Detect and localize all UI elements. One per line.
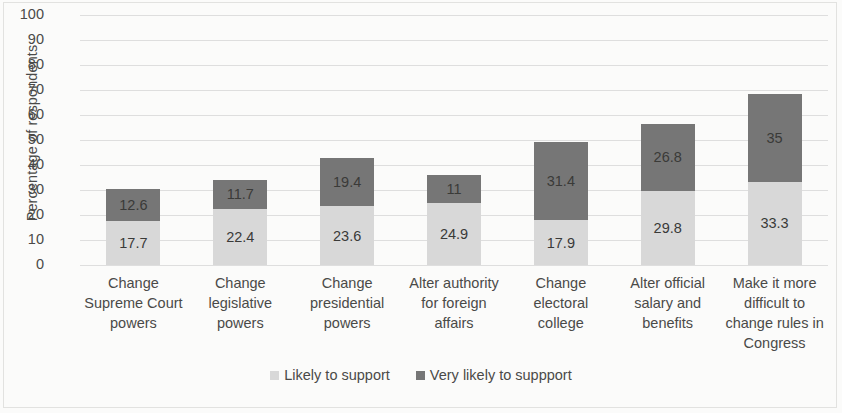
bar-value-label: 33.3: [748, 215, 802, 231]
x-axis-category-label: Changelegislativepowers: [188, 273, 292, 333]
y-axis-tick-label: 70: [0, 81, 44, 97]
y-axis-tick-label: 100: [0, 6, 44, 22]
y-axis-tick-label: 60: [0, 106, 44, 122]
x-axis-category-label-line: difficult to: [723, 293, 827, 313]
plot-area: 1009080706050403020100 17.712.622.411.72…: [80, 15, 828, 265]
bar-value-label: 11.7: [213, 186, 267, 202]
x-axis-category-label-line: Change: [188, 273, 292, 293]
x-axis-category-label: Changepresidentialpowers: [295, 273, 399, 333]
bar-value-label: 31.4: [534, 173, 588, 189]
bar-segment-likely-to-support[interactable]: 24.9: [427, 203, 481, 265]
x-axis-category-label-line: salary and: [616, 293, 720, 313]
gridline: [80, 65, 828, 66]
x-axis-category-label-line: Alter authority: [402, 273, 506, 293]
bar-value-label: 29.8: [641, 220, 695, 236]
y-axis-tick-label: 50: [0, 131, 44, 147]
x-axis-category-label-line: powers: [188, 313, 292, 333]
gridline: [80, 140, 828, 141]
x-axis-category-label-line: Change: [81, 273, 185, 293]
bar-segment-very-likely-to-support[interactable]: 19.4: [320, 158, 374, 207]
chart-container: Percentage of respondents 10090807060504…: [3, 2, 837, 408]
y-axis-tick-label: 20: [0, 206, 44, 222]
y-axis-tick-label: 80: [0, 56, 44, 72]
gridline: [80, 115, 828, 116]
gridline: [80, 265, 828, 266]
legend-label: Very likely to suppport: [430, 367, 572, 383]
bar-stack[interactable]: 24.911: [427, 175, 481, 265]
bar-stack[interactable]: 17.712.6: [106, 189, 160, 265]
y-axis-tick-label: 10: [0, 231, 44, 247]
bar-stack[interactable]: 29.826.8: [641, 124, 695, 266]
x-axis-category-label-line: college: [509, 313, 613, 333]
bar-value-label: 19.4: [320, 174, 374, 190]
x-axis-category-label: ChangeSupreme Courtpowers: [81, 273, 185, 333]
bar-segment-very-likely-to-support[interactable]: 11: [427, 175, 481, 203]
gridline: [80, 165, 828, 166]
x-axis-category-labels: ChangeSupreme CourtpowersChangelegislati…: [80, 273, 828, 363]
bar-segment-very-likely-to-support[interactable]: 12.6: [106, 189, 160, 221]
x-axis-category-label-line: presidential: [295, 293, 399, 313]
bar-segment-very-likely-to-support[interactable]: 31.4: [534, 142, 588, 221]
bar-value-label: 11: [427, 181, 481, 197]
bar-value-label: 22.4: [213, 229, 267, 245]
legend-swatch-icon: [270, 371, 279, 380]
x-axis-category-label-line: affairs: [402, 313, 506, 333]
legend-label: Likely to support: [284, 367, 390, 383]
gridline: [80, 40, 828, 41]
x-axis-category-label-line: Supreme Court: [81, 293, 185, 313]
bar-stack[interactable]: 17.931.4: [534, 142, 588, 265]
bar-stack[interactable]: 33.335: [748, 94, 802, 265]
x-axis-category-label-line: powers: [81, 313, 185, 333]
bar-segment-very-likely-to-support[interactable]: 35: [748, 94, 802, 182]
legend-item[interactable]: Very likely to suppport: [416, 367, 572, 383]
x-axis-category-label-line: Alter official: [616, 273, 720, 293]
x-axis-category-label-line: Change: [295, 273, 399, 293]
bar-segment-likely-to-support[interactable]: 17.7: [106, 221, 160, 265]
bar-segment-likely-to-support[interactable]: 23.6: [320, 206, 374, 265]
bar-value-label: 26.8: [641, 149, 695, 165]
bar-value-label: 17.7: [106, 235, 160, 251]
x-axis-category-label-line: for foreign: [402, 293, 506, 313]
x-axis-category-label: Alter authorityfor foreignaffairs: [402, 273, 506, 333]
bar-segment-very-likely-to-support[interactable]: 11.7: [213, 180, 267, 209]
x-axis-category-label-line: legislative: [188, 293, 292, 313]
bar-segment-likely-to-support[interactable]: 17.9: [534, 220, 588, 265]
gridline: [80, 90, 828, 91]
bar-value-label: 35: [748, 130, 802, 146]
x-axis-category-label: Alter officialsalary andbenefits: [616, 273, 720, 333]
x-axis-category-label-line: Congress: [723, 333, 827, 353]
y-axis-tick-label: 40: [0, 156, 44, 172]
y-axis-tick-label: 30: [0, 181, 44, 197]
bar-segment-likely-to-support[interactable]: 33.3: [748, 182, 802, 265]
gridline: [80, 15, 828, 16]
bar-value-label: 12.6: [106, 197, 160, 213]
bar-segment-very-likely-to-support[interactable]: 26.8: [641, 124, 695, 191]
x-axis-category-label: Make it moredifficult tochange rules inC…: [723, 273, 827, 353]
x-axis-category-label-line: change rules in: [723, 313, 827, 333]
bar-segment-likely-to-support[interactable]: 29.8: [641, 191, 695, 266]
bar-stack[interactable]: 22.411.7: [213, 180, 267, 265]
x-axis-category-label-line: Make it more: [723, 273, 827, 293]
bar-segment-likely-to-support[interactable]: 22.4: [213, 209, 267, 265]
x-axis-category-label-line: benefits: [616, 313, 720, 333]
x-axis-category-label-line: powers: [295, 313, 399, 333]
bar-value-label: 23.6: [320, 228, 374, 244]
x-axis-category-label-line: Change: [509, 273, 613, 293]
bar-value-label: 24.9: [427, 226, 481, 242]
x-axis-category-label-line: electoral: [509, 293, 613, 313]
y-axis-tick-label: 0: [0, 256, 44, 272]
bar-stack[interactable]: 23.619.4: [320, 158, 374, 266]
legend-item[interactable]: Likely to support: [270, 367, 390, 383]
x-axis-category-label: Changeelectoralcollege: [509, 273, 613, 333]
y-axis-tick-label: 90: [0, 31, 44, 47]
legend-swatch-icon: [416, 371, 425, 380]
bar-value-label: 17.9: [534, 235, 588, 251]
chart-legend: Likely to supportVery likely to suppport: [4, 367, 838, 383]
